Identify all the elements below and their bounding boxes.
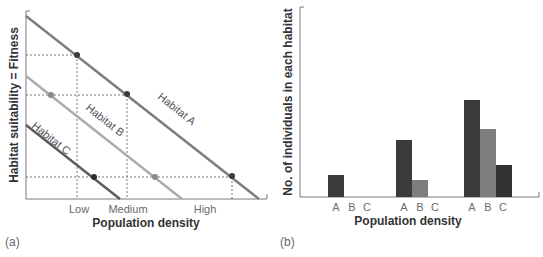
group-high-b: B (484, 201, 491, 213)
bar-medium-b (412, 180, 428, 197)
habitat-a-line (26, 16, 259, 199)
group-medium-b: B (416, 201, 423, 213)
bar-medium-a (396, 140, 412, 197)
bar-high-a (464, 100, 480, 197)
group-low-a: A (332, 201, 340, 213)
marker-b-upper (48, 92, 54, 98)
group-high-a: A (468, 201, 476, 213)
x-tick-high: High (194, 203, 217, 215)
panel-a-y-axis-label: Habitat suitability = Fitness (7, 27, 21, 183)
group-medium-c: C (431, 201, 439, 213)
panel-a-label: (a) (5, 235, 20, 249)
panel-a-line-chart: Habitat A Habitat B Habitat C Low Medium… (5, 11, 267, 249)
group-medium-a: A (400, 201, 408, 213)
panel-a-x-axis-label: Population density (92, 216, 200, 230)
bar-low-a (328, 175, 344, 197)
bar-group-letters: A B C A B C A B C (332, 201, 507, 213)
bar-high-c (496, 165, 512, 197)
marker-a-low (74, 52, 80, 58)
figure: Habitat A Habitat B Habitat C Low Medium… (0, 0, 543, 257)
bar-high-b (480, 129, 496, 197)
marker-a-medium (124, 91, 130, 97)
panel-b-bar-chart: A B C A B C A B C Population density No.… (280, 7, 539, 249)
marker-c (91, 174, 97, 180)
group-low-b: B (348, 201, 355, 213)
marker-a-high (229, 173, 235, 179)
panel-b-x-axis-label: Population density (354, 214, 462, 228)
marker-b-lower (152, 174, 158, 180)
panel-b-label: (b) (280, 235, 295, 249)
group-high-c: C (499, 201, 507, 213)
x-tick-low: Low (69, 203, 89, 215)
group-low-c: C (363, 201, 371, 213)
habitat-c-label: Habitat C (30, 119, 73, 157)
x-tick-medium: Medium (108, 203, 147, 215)
panel-b-y-axis-label: No. of individuals in each habitat (281, 8, 295, 195)
habitat-b-label: Habitat B (84, 101, 127, 139)
reference-dashed-lines (26, 55, 232, 199)
